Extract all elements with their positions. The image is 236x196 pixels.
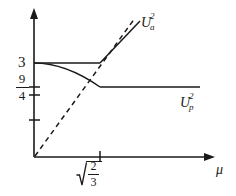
up-subscript: p [189,103,194,112]
fraction-numerator: 9 [14,72,30,86]
x-axis-arrow-icon [204,153,215,161]
radical-sign-icon [76,161,87,187]
up-symbol-group: U 2 p [180,96,190,110]
y-axis-arrow-icon [30,8,38,19]
figure-container: 3 9 4 U 2 a U 2 p μ 2 [0,0,236,196]
fraction-denominator: 4 [14,89,30,103]
ua-subscript: a [150,23,155,32]
up-superscript: 2 [189,92,194,101]
y-axis-tick-label-nine-fourths: 9 4 [14,72,30,102]
sqrt-fraction: 2 3 [87,160,100,188]
y-axis-tick-label-3: 3 [18,55,26,70]
curve-up-descending [34,63,100,87]
sqrt-fraction-denominator: 3 [88,176,99,189]
curve-label-up-squared: U 2 p [180,96,190,110]
plot-svg [0,0,236,196]
x-axis-label-mu: μ [216,163,223,177]
curve-label-ua-squared: U 2 a [141,16,151,30]
radical-overbar [86,161,102,162]
ua-superscript: 2 [150,12,155,21]
curve-ua-rising [100,21,140,63]
x-axis-tick-label-sqrt-two-thirds: 2 3 [76,160,100,188]
ua-symbol-group: U 2 a [141,16,151,30]
radical-group: 2 3 [76,160,100,188]
